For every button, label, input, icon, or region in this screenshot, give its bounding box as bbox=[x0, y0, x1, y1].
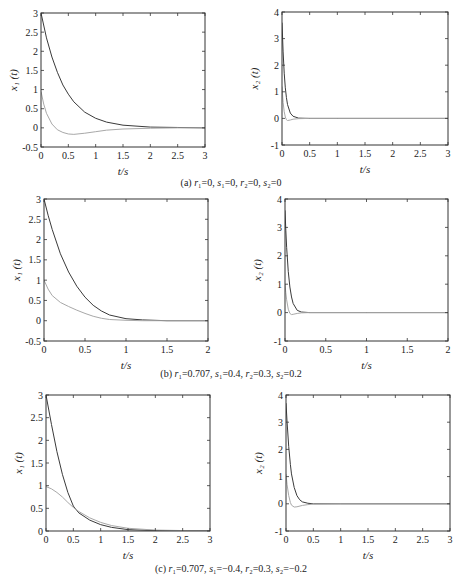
axes-frame bbox=[285, 199, 448, 341]
x-tick-label: 2.5 bbox=[416, 534, 429, 545]
series-light bbox=[46, 487, 210, 531]
x-tick-label: 2.5 bbox=[171, 150, 184, 161]
x-tick-label: 2 bbox=[446, 344, 451, 355]
plot-area bbox=[41, 13, 205, 134]
x-tick-label: 0 bbox=[42, 344, 47, 355]
series-dark bbox=[44, 199, 208, 321]
y-tick-label: 3 bbox=[274, 33, 279, 44]
axes-frame bbox=[41, 13, 205, 147]
axes-frame bbox=[282, 12, 448, 145]
x-tick-label: 1.5 bbox=[122, 534, 135, 545]
y-tick-label: 0 bbox=[274, 113, 279, 124]
y-tick-label: 4 bbox=[274, 7, 279, 18]
caption-c: (c) r₁=0.707, s₁=−0.4, r₂=0.3, s₂=−0.2 bbox=[0, 563, 462, 574]
x-tick-label: 2 bbox=[153, 534, 158, 545]
series-dark bbox=[41, 13, 205, 128]
x-tick-label: 2 bbox=[206, 344, 211, 355]
x-tick-label: 2 bbox=[148, 150, 153, 161]
series-light bbox=[44, 280, 208, 321]
y-tick-label: 1 bbox=[274, 86, 279, 97]
x-tick-label: 1 bbox=[338, 534, 343, 545]
chart-b-x1: 00.511.52-0.500.511.522.53t/sx₁ (t) bbox=[8, 193, 218, 377]
x-axis-label: t/s bbox=[363, 549, 373, 561]
x-tick-label: 1.5 bbox=[401, 344, 414, 355]
x-tick-label: 0 bbox=[44, 534, 49, 545]
series-light bbox=[282, 86, 448, 120]
x-tick-label: 1.5 bbox=[161, 344, 174, 355]
y-tick-label: -0.5 bbox=[22, 142, 38, 153]
series-dark bbox=[282, 23, 448, 119]
series-light bbox=[41, 91, 205, 134]
y-tick-label: 1.5 bbox=[26, 65, 39, 76]
y-tick-label: 1 bbox=[33, 84, 38, 95]
y-tick-label: 4 bbox=[278, 390, 283, 401]
plot-area bbox=[44, 199, 208, 321]
y-tick-label: 2 bbox=[33, 46, 38, 57]
chart-c-x1: 00.511.522.5300.511.522.53t/sx₁ (t) bbox=[10, 389, 220, 567]
plot-area bbox=[46, 395, 210, 531]
x-tick-label: 0.5 bbox=[307, 534, 320, 545]
chart-b-x2: 00.511.52-101234t/sx₂ (t) bbox=[249, 193, 458, 377]
y-tick-label: 1.5 bbox=[31, 458, 44, 469]
x-tick-label: 0 bbox=[284, 534, 289, 545]
x-tick-label: 0 bbox=[280, 148, 285, 159]
y-tick-label: 0.5 bbox=[31, 503, 44, 514]
y-tick-label: -1 bbox=[275, 526, 283, 537]
x-tick-label: 0.5 bbox=[67, 534, 80, 545]
y-tick-label: 0 bbox=[278, 498, 283, 509]
y-tick-label: 1 bbox=[278, 471, 283, 482]
y-tick-label: -1 bbox=[274, 336, 282, 347]
series-dark bbox=[285, 210, 448, 312]
y-tick-label: 0 bbox=[277, 307, 282, 318]
axes-frame bbox=[44, 199, 208, 341]
y-tick-label: 3 bbox=[36, 194, 41, 205]
y-tick-label: 3 bbox=[277, 222, 282, 233]
x-tick-label: 1 bbox=[124, 344, 129, 355]
x-tick-label: 0.5 bbox=[62, 150, 74, 161]
x-tick-label: 1 bbox=[98, 534, 103, 545]
series-dark bbox=[46, 395, 210, 531]
axes-frame bbox=[286, 395, 450, 531]
x-tick-label: 3 bbox=[448, 534, 453, 545]
figure: 00.511.522.53-0.500.511.522.53t/sx₁ (t) … bbox=[0, 0, 462, 577]
y-tick-label: 2.5 bbox=[29, 214, 42, 225]
x-tick-label: 0.5 bbox=[79, 344, 92, 355]
x-tick-label: 3 bbox=[203, 150, 208, 161]
x-tick-label: 1 bbox=[364, 344, 369, 355]
y-tick-label: 0 bbox=[36, 315, 41, 326]
y-tick-label: 1.5 bbox=[29, 254, 42, 265]
y-axis-label: x₁ (t) bbox=[7, 69, 20, 92]
y-tick-label: 0.5 bbox=[29, 295, 42, 306]
y-axis-label: x₂ (t) bbox=[248, 67, 261, 90]
chart-a-x2: 00.511.522.53-101234t/sx₂ (t) bbox=[246, 6, 458, 181]
caption-b: (b) r₁=0.707, s₁=0.4, r₂=0.3, s₂=0.2 bbox=[0, 368, 462, 379]
x-tick-label: 2 bbox=[390, 148, 395, 159]
y-tick-label: 3 bbox=[278, 417, 283, 428]
plot-area bbox=[286, 403, 450, 507]
x-tick-label: 0.5 bbox=[320, 344, 333, 355]
y-tick-label: 0 bbox=[38, 526, 43, 537]
y-tick-label: 2 bbox=[278, 444, 283, 455]
caption-a: (a) r₁=0, s₁=0, r₂=0, s₂=0 bbox=[0, 177, 462, 188]
y-tick-label: -0.5 bbox=[25, 336, 41, 347]
x-tick-label: 1.5 bbox=[117, 150, 130, 161]
plot-area bbox=[282, 23, 448, 121]
y-axis-label: x₂ (t) bbox=[252, 452, 265, 475]
x-tick-label: 1 bbox=[93, 150, 98, 161]
y-tick-label: 3 bbox=[38, 390, 43, 401]
x-tick-label: 2 bbox=[393, 534, 398, 545]
x-tick-label: 3 bbox=[208, 534, 213, 545]
x-tick-label: 1.5 bbox=[362, 534, 375, 545]
y-tick-label: 2 bbox=[38, 435, 43, 446]
y-tick-label: 2.5 bbox=[26, 27, 39, 38]
y-tick-label: 0.5 bbox=[26, 103, 39, 114]
series-light bbox=[285, 284, 448, 314]
y-axis-label: x₁ (t) bbox=[12, 452, 25, 475]
x-axis-label: t/s bbox=[118, 165, 128, 177]
y-tick-label: 2.5 bbox=[31, 412, 44, 423]
plot-area bbox=[285, 210, 448, 314]
x-tick-label: 1 bbox=[335, 148, 340, 159]
y-axis-label: x₂ (t) bbox=[251, 259, 264, 282]
x-tick-label: 0 bbox=[283, 344, 288, 355]
y-tick-label: 1 bbox=[38, 480, 43, 491]
